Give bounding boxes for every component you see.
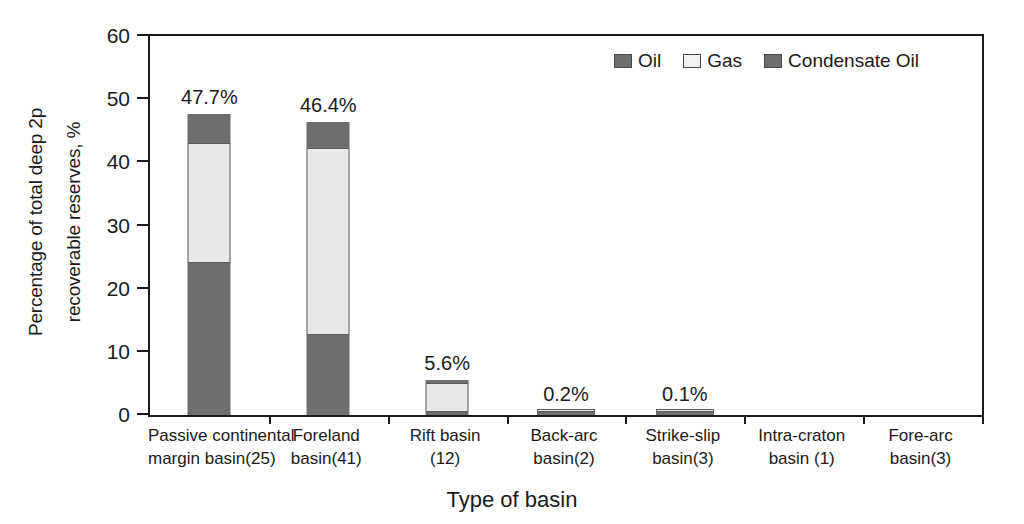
x-axis-category-line: basin (1): [742, 447, 861, 470]
x-axis-category-line: (12): [386, 447, 505, 470]
x-axis-category-label: Strike-slipbasin(3): [623, 424, 742, 470]
bar-group: 0.2%: [507, 36, 626, 415]
y-axis-title-line-2: recoverable reserves, %: [63, 122, 85, 322]
x-axis-category-line: basin(3): [861, 447, 980, 470]
plot-area: 0102030405060 47.7%46.4%5.6%0.2%0.1%: [148, 34, 984, 417]
bar-segment-gas[interactable]: [188, 143, 231, 263]
x-axis-category-line: basin(3): [623, 447, 742, 470]
y-axis-tick-label: 10: [107, 340, 130, 364]
y-axis-tick-label: 20: [107, 277, 130, 301]
x-axis-category-line: Rift basin: [386, 424, 505, 447]
bar-segment-oil[interactable]: [537, 412, 595, 415]
x-axis-category-line: Back-arc: [505, 424, 624, 447]
x-axis-category-label: Forelandbasin(41): [267, 424, 386, 470]
y-axis-tick: 20: [137, 287, 150, 289]
bar-group: [744, 36, 863, 415]
stacked-bar[interactable]: [188, 114, 231, 415]
x-axis-category-label: Back-arcbasin(2): [505, 424, 624, 470]
x-axis-tick: [863, 415, 865, 424]
y-axis-tick-label: 60: [107, 24, 130, 48]
x-axis-title: Type of basin: [0, 487, 1024, 513]
condensate-swatch-icon: [764, 54, 782, 68]
bar-group: [863, 36, 982, 415]
y-axis-tick-label: 50: [107, 87, 130, 111]
bar-segment-condensate[interactable]: [307, 122, 350, 148]
y-axis-tick: 0: [137, 413, 150, 415]
x-axis-tick: [269, 415, 271, 424]
bars-layer: 47.7%46.4%5.6%0.2%0.1%: [150, 36, 982, 415]
x-axis-category-line: basin(2): [505, 447, 624, 470]
bar-segment-gas[interactable]: [307, 148, 350, 335]
stacked-bar[interactable]: [656, 409, 714, 415]
x-axis-tick: [625, 415, 627, 424]
stacked-bar[interactable]: [307, 122, 350, 415]
bar-segment-oil[interactable]: [656, 412, 714, 415]
y-axis-tick-label: 40: [107, 150, 130, 174]
bar-value-label: 47.7%: [181, 86, 238, 109]
x-axis-category-line: Strike-slip: [623, 424, 742, 447]
x-axis-tick: [744, 415, 746, 424]
bar-group: 46.4%: [269, 36, 388, 415]
bar-value-label: 5.6%: [424, 352, 470, 375]
bar-segment-oil[interactable]: [426, 412, 469, 415]
gas-swatch-icon: [683, 54, 701, 68]
x-axis-tick: [982, 415, 984, 424]
bar-segment-gas[interactable]: [426, 383, 469, 412]
x-axis-category-label: Rift basin(12): [386, 424, 505, 470]
legend-item-label: Condensate Oil: [788, 50, 919, 72]
legend-item-oil[interactable]: Oil: [614, 50, 661, 72]
x-axis-tick: [507, 415, 509, 424]
x-axis-category-line: Intra-craton: [742, 424, 861, 447]
chart-legend: OilGasCondensate Oil: [614, 50, 919, 72]
legend-item-label: Gas: [707, 50, 742, 72]
bar-segment-condensate[interactable]: [188, 114, 231, 144]
legend-item-gas[interactable]: Gas: [683, 50, 742, 72]
y-axis-tick-label: 30: [107, 214, 130, 238]
bar-value-label: 0.1%: [662, 383, 708, 406]
stacked-bar[interactable]: [537, 409, 595, 415]
bar-group: 47.7%: [150, 36, 269, 415]
x-axis-category-labels: Passive continentalmargin basin(25)Forel…: [148, 424, 984, 476]
x-axis-category-line: Fore-arc: [861, 424, 980, 447]
bar-segment-oil[interactable]: [188, 263, 231, 415]
y-axis-tick-label: 0: [118, 403, 130, 427]
chart-figure: Percentage of total deep 2p recoverable …: [0, 0, 1024, 524]
y-axis-tick: 30: [137, 224, 150, 226]
bar-group: 0.1%: [625, 36, 744, 415]
oil-swatch-icon: [614, 54, 632, 68]
x-axis-category-line: Foreland: [267, 424, 386, 447]
y-axis-tick: 40: [137, 160, 150, 162]
x-axis-category-line: basin(41): [267, 447, 386, 470]
bar-group: 5.6%: [388, 36, 507, 415]
x-axis-category-label: Passive continentalmargin basin(25): [148, 424, 267, 470]
y-axis-tick: 10: [137, 350, 150, 352]
x-axis-tick: [388, 415, 390, 424]
bar-value-label: 0.2%: [543, 383, 589, 406]
x-axis-category-line: Passive continental: [148, 424, 267, 447]
x-axis-category-label: Intra-cratonbasin (1): [742, 424, 861, 470]
bar-segment-oil[interactable]: [307, 335, 350, 415]
legend-item-label: Oil: [638, 50, 661, 72]
x-axis-category-line: margin basin(25): [148, 447, 267, 470]
y-axis-title-line-1: Percentage of total deep 2p: [25, 108, 47, 336]
bar-value-label: 46.4%: [300, 94, 357, 117]
y-axis-tick: 50: [137, 97, 150, 99]
y-axis-title: Percentage of total deep 2p recoverable …: [16, 28, 94, 416]
x-axis-category-label: Fore-arcbasin(3): [861, 424, 980, 470]
y-axis-tick: 60: [137, 34, 150, 36]
legend-item-condensate[interactable]: Condensate Oil: [764, 50, 919, 72]
stacked-bar[interactable]: [426, 380, 469, 415]
